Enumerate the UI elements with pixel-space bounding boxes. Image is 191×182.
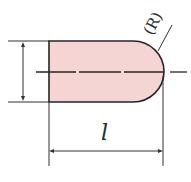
length-dimension xyxy=(49,149,163,153)
length-label: l xyxy=(101,120,108,145)
diagram-canvas: l (R) xyxy=(0,0,191,182)
diameter-dimension xyxy=(21,42,25,101)
radius-label: (R) xyxy=(140,9,167,38)
